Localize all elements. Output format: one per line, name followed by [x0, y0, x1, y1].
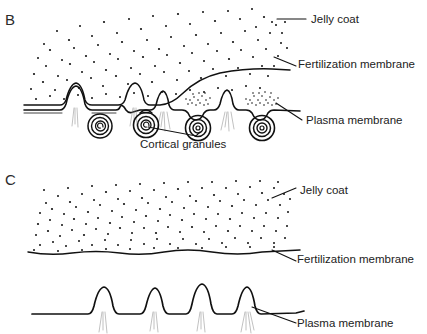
- label-jelly-coat-b: Jelly coat: [311, 13, 359, 25]
- plasma-membrane-c: [32, 284, 304, 314]
- cortical-granule: [250, 116, 275, 141]
- leader-plasma-membrane-c: [252, 307, 296, 323]
- microvilli-fibers-c: [99, 312, 254, 333]
- label-jelly-coat-c: Jelly coat: [300, 184, 348, 196]
- fertilization-membrane-c: [28, 250, 300, 254]
- leader-fertilization-membrane-c: [272, 250, 296, 261]
- jelly-coat-stipple-c: [33, 180, 291, 252]
- panel-b-drawing: [0, 0, 427, 334]
- label-plasma-membrane-b: Plasma membrane: [306, 114, 403, 126]
- leader-fertilization-membrane-b: [274, 57, 296, 66]
- label-cortical-granules-b: Cortical granules: [140, 138, 226, 150]
- jelly-coat-stipple-b: [30, 8, 288, 100]
- label-fertilization-membrane-c: Fertilization membrane: [297, 253, 414, 265]
- figure-sea-urchin-fertilization: B C: [0, 0, 427, 334]
- plasma-membrane-b: [24, 86, 300, 120]
- label-fertilization-membrane-b: Fertilization membrane: [298, 58, 415, 70]
- leader-jelly-coat-c: [272, 188, 296, 198]
- cortical-granule: [88, 114, 112, 138]
- cortical-granule: [134, 110, 159, 138]
- label-plasma-membrane-c: Plasma membrane: [297, 317, 394, 329]
- cortical-granule: [186, 116, 211, 141]
